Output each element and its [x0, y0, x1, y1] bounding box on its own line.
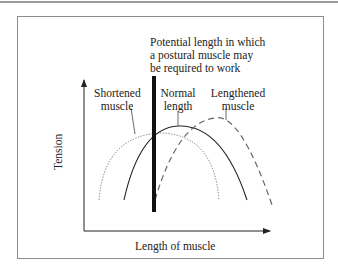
postural-length-bar [152, 76, 156, 212]
lengthened-label-line1: Lengthened [210, 87, 266, 100]
annotation-line-3: be required to work [150, 62, 265, 75]
postural-annotation: Potential length in which a postural mus… [150, 36, 265, 75]
lengthened-label: Lengthened muscle [210, 87, 266, 113]
x-axis-label: Length of muscle [135, 240, 215, 253]
lengthened-muscle-curve [155, 118, 272, 205]
normal-label-line1: Normal [160, 87, 196, 100]
annotation-line-2: a postural muscle may [150, 49, 265, 62]
normal-length-curve [124, 126, 247, 200]
normal-label: Normal length [160, 87, 196, 113]
lengthened-label-line2: muscle [210, 100, 266, 113]
annotation-line-1: Potential length in which [150, 36, 265, 49]
y-axis-label: Tension [52, 134, 65, 170]
shortened-label: Shortened muscle [94, 87, 140, 113]
shortened-muscle-curve [99, 133, 219, 200]
shortened-label-line2: muscle [94, 100, 140, 113]
shortened-label-line1: Shortened [94, 87, 140, 100]
normal-label-line2: length [160, 100, 196, 113]
